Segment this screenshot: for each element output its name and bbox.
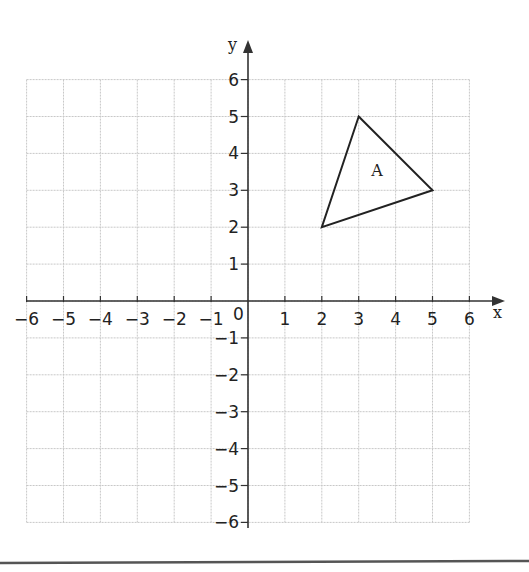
coordinate-grid-figure: x y 0 −6−5−4−3−2−1123456−6−5−4−3−2−11234…	[0, 0, 529, 572]
y-tick-label: −1	[214, 328, 239, 348]
y-tick-label: −4	[214, 439, 239, 459]
y-axis-arrow-icon	[243, 40, 253, 53]
y-tick-label: 5	[228, 107, 239, 127]
y-tick-label: 2	[228, 217, 239, 237]
x-tick-label: −1	[199, 309, 224, 329]
y-tick-label: 1	[228, 254, 239, 274]
x-axis-label: x	[493, 303, 502, 322]
shape-label: A	[370, 161, 383, 180]
x-tick-label: −4	[88, 309, 113, 329]
x-tick-label: 4	[390, 309, 401, 329]
y-axis-label: y	[227, 35, 237, 54]
x-tick-label: −5	[51, 309, 76, 329]
x-tick-label: −6	[14, 309, 39, 329]
origin-label: 0	[233, 304, 244, 324]
x-tick-label: −3	[125, 309, 150, 329]
shapes: A	[322, 117, 433, 228]
bottom-rule-divider	[0, 561, 529, 563]
y-tick-label: −3	[214, 402, 239, 422]
x-tick-label: 6	[464, 309, 475, 329]
x-tick-label: 1	[279, 309, 290, 329]
axes: x y 0	[27, 35, 505, 528]
y-tick-label: −2	[214, 365, 239, 385]
y-tick-label: 4	[228, 143, 239, 163]
x-tick-label: −2	[162, 309, 187, 329]
x-tick-label: 5	[427, 309, 438, 329]
x-tick-label: 3	[353, 309, 364, 329]
x-tick-label: 2	[316, 309, 327, 329]
y-tick-label: −6	[214, 512, 239, 532]
y-tick-label: 3	[228, 180, 239, 200]
y-tick-label: 6	[228, 70, 239, 90]
y-tick-label: −5	[214, 476, 239, 496]
